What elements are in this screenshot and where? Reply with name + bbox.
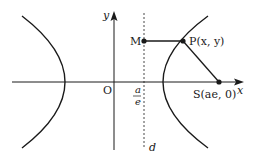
point-S — [216, 79, 221, 84]
point-P-label: P(x, y) — [189, 35, 224, 48]
directrix-label: d — [149, 141, 156, 154]
point-P — [180, 38, 185, 43]
point-M-label: M — [130, 35, 141, 48]
x-axis-label: x — [237, 84, 244, 97]
point-M — [141, 38, 146, 43]
hyperbola-diagram: y x O a e d M P(x, y) S(ae, 0) — [0, 0, 258, 160]
point-S-label: S(ae, 0) — [193, 88, 236, 101]
fraction-numerator: a — [135, 84, 141, 95]
origin-label: O — [103, 84, 112, 97]
fraction-denominator: e — [135, 96, 141, 107]
y-axis-label: y — [102, 9, 110, 22]
